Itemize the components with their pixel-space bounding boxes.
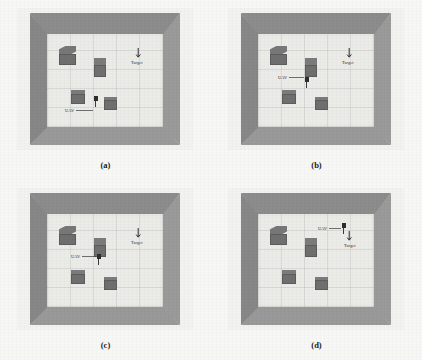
scene-viewport: UAVTarget — [17, 188, 193, 330]
obstacle-3 — [282, 270, 296, 284]
obstacle-front-face — [94, 65, 106, 77]
obstacle-top-face — [282, 90, 296, 95]
obstacle-top-face — [104, 97, 117, 101]
wall-bottom — [30, 307, 180, 325]
floor-grid: UAVTarget — [47, 214, 163, 307]
wall-left — [30, 193, 48, 325]
target-label: Target — [131, 240, 143, 245]
uav-stem — [343, 228, 344, 234]
obstacle-front-face — [71, 274, 85, 284]
target-marker — [135, 228, 144, 240]
obstacle-2 — [94, 238, 106, 257]
obstacle-front-face — [282, 94, 296, 104]
obstacle-3 — [282, 90, 296, 104]
uav-label: UAV — [71, 254, 80, 259]
target-label: Target — [344, 243, 356, 248]
uav-body — [305, 77, 309, 82]
obstacle-top-face — [305, 58, 317, 66]
panel-caption: (c) — [0, 340, 211, 350]
obstacle-4 — [104, 97, 117, 110]
uav-leader-line — [329, 228, 341, 229]
obstacle-top-face — [270, 226, 287, 235]
obstacle-front-face — [71, 94, 85, 104]
panel-caption: (a) — [0, 160, 211, 170]
obstacle-front-face — [270, 234, 287, 245]
uav-stem — [306, 82, 307, 88]
obstacle-top-face — [94, 58, 106, 66]
uav-body — [97, 254, 101, 259]
obstacle-front-face — [315, 100, 328, 110]
obstacle-1 — [270, 226, 287, 245]
panel-d: UAVTarget(d) — [211, 180, 422, 360]
uav-stem — [95, 101, 96, 107]
room-enclosure: UAVTarget — [241, 193, 391, 325]
panel-caption: (d) — [211, 340, 422, 350]
obstacle-top-face — [305, 238, 317, 246]
uav-body — [342, 223, 346, 228]
obstacle-2 — [94, 58, 106, 77]
target-marker — [346, 48, 355, 60]
obstacle-top-face — [94, 238, 106, 246]
floor-grid: UAVTarget — [258, 214, 374, 307]
wall-top — [30, 193, 180, 215]
obstacle-front-face — [282, 274, 296, 284]
obstacle-1 — [59, 226, 76, 245]
floor-grid: UAVTarget — [47, 34, 163, 127]
obstacle-2 — [305, 58, 317, 77]
target-marker — [346, 231, 355, 243]
room-enclosure: UAVTarget — [241, 13, 391, 145]
panel-b: UAVTarget(b) — [211, 0, 422, 180]
wall-bottom — [241, 127, 391, 145]
wall-bottom — [30, 127, 180, 145]
obstacle-1 — [270, 46, 287, 65]
target-label: Target — [342, 60, 354, 65]
obstacle-front-face — [315, 280, 328, 290]
obstacle-2 — [305, 238, 317, 257]
scene-viewport: UAVTarget — [17, 8, 193, 150]
obstacle-front-face — [305, 245, 317, 257]
obstacle-4 — [104, 277, 117, 290]
obstacle-top-face — [282, 270, 296, 275]
obstacle-3 — [71, 90, 85, 104]
obstacle-4 — [315, 97, 328, 110]
obstacle-top-face — [71, 90, 85, 95]
wall-right — [162, 13, 180, 145]
obstacle-4 — [315, 277, 328, 290]
obstacle-1 — [59, 46, 76, 65]
obstacle-front-face — [59, 234, 76, 245]
obstacle-front-face — [104, 100, 117, 110]
figure-four-panel-uav-simulation: UAVTarget(a)UAVTarget(b)UAVTarget(c)UAVT… — [0, 0, 422, 360]
wall-right — [373, 193, 391, 325]
uav-leader-line — [76, 110, 93, 111]
obstacle-top-face — [315, 97, 328, 101]
room-enclosure: UAVTarget — [30, 193, 180, 325]
scene-viewport: UAVTarget — [228, 188, 404, 330]
wall-left — [241, 193, 259, 325]
obstacle-front-face — [94, 245, 106, 257]
obstacle-top-face — [59, 46, 76, 55]
uav-stem — [98, 259, 99, 265]
wall-top — [241, 13, 391, 35]
room-enclosure: UAVTarget — [30, 13, 180, 145]
panel-a: UAVTarget(a) — [0, 0, 211, 180]
obstacle-front-face — [104, 280, 117, 290]
uav-label: UAV — [278, 75, 287, 80]
panel-caption: (b) — [211, 160, 422, 170]
obstacle-top-face — [71, 270, 85, 275]
obstacle-front-face — [59, 54, 76, 65]
obstacle-3 — [71, 270, 85, 284]
panel-c: UAVTarget(c) — [0, 180, 211, 360]
uav-body — [94, 96, 98, 101]
wall-right — [162, 193, 180, 325]
scene-viewport: UAVTarget — [228, 8, 404, 150]
uav-label: UAV — [318, 226, 327, 231]
target-marker — [135, 48, 144, 60]
obstacle-top-face — [315, 277, 328, 281]
obstacle-top-face — [270, 46, 287, 55]
uav-leader-line — [82, 256, 96, 257]
floor-grid: UAVTarget — [258, 34, 374, 127]
wall-right — [373, 13, 391, 145]
wall-left — [30, 13, 48, 145]
wall-top — [241, 193, 391, 215]
target-label: Target — [131, 60, 143, 65]
